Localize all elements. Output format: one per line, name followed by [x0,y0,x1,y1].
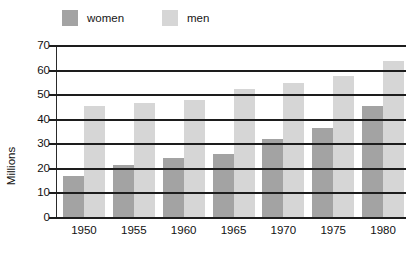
x-axis-tick-label: 1955 [111,224,157,236]
y-axis-tick [49,192,57,194]
y-axis-tick [49,94,57,96]
bar-men [333,76,354,219]
bar-women [213,154,234,218]
bar-chart: Millions 010203040506070 195019551960196… [0,0,420,265]
bar-women [312,128,333,218]
gridline [57,143,406,145]
y-axis-title: Millions [5,131,17,201]
y-axis-tick [49,143,57,145]
bar-men [84,106,105,218]
x-axis-tick-label: 1965 [211,224,257,236]
bar-women [163,158,184,218]
y-axis-tick-label: 30 [26,138,50,150]
gridline [57,192,406,194]
bar-men [234,89,255,218]
x-axis-tick-label: 1975 [310,224,356,236]
gridline [57,70,406,72]
y-axis-tick [49,45,57,47]
gridline [57,168,406,170]
gridline [57,94,406,96]
x-axis-tick-label: 1970 [260,224,306,236]
bar-women [63,176,84,218]
y-axis-tick [49,168,57,170]
y-axis-tick-label: 10 [26,187,50,199]
y-axis-tick-labels: 010203040506070 [22,0,50,265]
y-axis-tick-label: 0 [26,212,50,224]
x-axis-line [57,217,406,219]
plot-area [57,46,406,218]
gridline [57,119,406,121]
y-axis-tick [49,70,57,72]
y-axis-tick-label: 20 [26,163,50,175]
y-axis-tick-label: 70 [26,40,50,52]
x-axis-tick-label: 1950 [61,224,107,236]
y-axis-tick [49,217,57,219]
y-axis-tick-label: 60 [26,65,50,77]
y-axis-tick-label: 40 [26,114,50,126]
x-axis-tick-label: 1960 [161,224,207,236]
bar-men [283,83,304,218]
bar-women [362,106,383,218]
y-axis-tick-label: 50 [26,89,50,101]
gridline [57,45,406,47]
y-axis-tick [49,119,57,121]
x-axis-tick-label: 1980 [360,224,406,236]
bar-women [262,139,283,218]
